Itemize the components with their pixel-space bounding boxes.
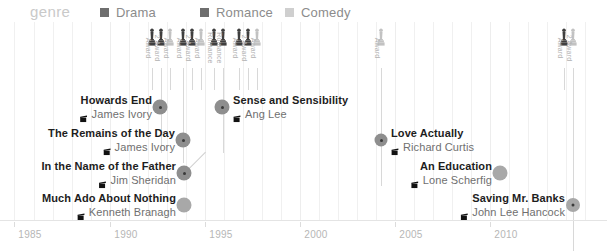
gridline <box>53 22 54 220</box>
film-label[interactable]: Saving Mr. BanksJohn Lee Hancock <box>460 192 565 219</box>
legend-label: Drama <box>116 5 156 20</box>
film-label[interactable]: Much Ado About NothingKenneth Branagh <box>42 192 176 219</box>
film-label[interactable]: An EducationLone Scherfig <box>411 160 492 187</box>
film-dot[interactable] <box>177 198 192 213</box>
award-stem <box>152 68 153 90</box>
axis-label: 2010 <box>494 229 517 240</box>
gridline <box>357 22 358 220</box>
award-caption: Award <box>374 38 381 59</box>
gridline <box>224 22 225 220</box>
film-director: James Ivory <box>92 108 152 121</box>
film-director-row: James Ivory <box>48 141 175 154</box>
award-stem <box>214 68 215 90</box>
film-dot-core <box>572 204 575 207</box>
legend-swatch-icon <box>285 8 294 17</box>
award-caption: Romance <box>207 32 214 63</box>
award-caption: 2 Award <box>185 35 192 62</box>
gridline <box>338 22 339 220</box>
film-title: An Education <box>411 160 492 173</box>
award-stem <box>183 68 184 163</box>
gridline <box>91 22 92 220</box>
film-title: Much Ado About Nothing <box>42 192 176 205</box>
film-director-row: James Ivory <box>80 108 152 121</box>
award-caption: 2 Award <box>154 35 161 62</box>
award-caption: Award <box>176 38 183 59</box>
clapperboard-icon <box>103 143 111 151</box>
axis-line <box>0 220 607 221</box>
film-label[interactable]: Sense and SensibilityAng Lee <box>233 94 348 121</box>
axis-tick <box>395 222 396 227</box>
award-caption: Award <box>145 38 152 59</box>
film-dot[interactable] <box>375 134 388 147</box>
gridline <box>528 22 529 220</box>
film-dot[interactable] <box>177 166 192 181</box>
clapperboard-icon <box>77 208 85 216</box>
clapperboard-icon <box>233 110 241 118</box>
axis-label: 2000 <box>304 229 327 240</box>
award-stem <box>170 68 171 90</box>
film-director-row: John Lee Hancock <box>460 206 565 219</box>
film-director-row: Richard Curtis <box>391 141 474 154</box>
axis-label: 1990 <box>114 229 137 240</box>
film-dot-core <box>183 172 186 175</box>
film-director-row: Jim Sheridan <box>41 174 176 187</box>
gridline <box>72 22 73 220</box>
film-dot[interactable] <box>215 100 230 115</box>
film-title: Love Actually <box>391 127 474 140</box>
film-label[interactable]: Love ActuallyRichard Curtis <box>391 127 474 154</box>
clapperboard-icon <box>99 176 107 184</box>
gridline <box>547 22 548 220</box>
legend-item-drama[interactable]: Drama <box>100 5 156 20</box>
film-director-row: Ang Lee <box>233 108 348 121</box>
award-caption: Romance <box>216 32 223 63</box>
gridline <box>129 22 130 220</box>
gridline <box>14 22 15 220</box>
film-dot-core <box>159 106 162 109</box>
legend-label: Comedy <box>301 5 351 20</box>
axis-label: 1995 <box>209 229 232 240</box>
award-stem <box>239 68 240 90</box>
film-dot[interactable] <box>566 198 580 212</box>
film-dot-core <box>380 139 383 142</box>
film-label[interactable]: The Remains of the DayJames Ivory <box>48 127 175 154</box>
film-title: The Remains of the Day <box>48 127 175 140</box>
award-stem <box>257 68 258 90</box>
gridline <box>281 22 282 220</box>
axis-tick <box>14 222 15 227</box>
award-caption: Award <box>557 38 564 59</box>
gridline <box>110 22 111 220</box>
legend-item-comedy[interactable]: Comedy <box>285 5 351 20</box>
gridline <box>205 22 206 220</box>
axis-tick <box>110 222 111 227</box>
legend-item-romance[interactable]: Romance <box>200 5 273 20</box>
award-caption: Award <box>163 38 170 59</box>
film-dot[interactable] <box>176 133 191 148</box>
legend-swatch-icon <box>100 8 109 17</box>
gridline <box>433 22 434 220</box>
gridline <box>471 22 472 220</box>
film-director-row: Kenneth Branagh <box>42 206 176 219</box>
gridline <box>490 22 491 220</box>
film-label[interactable]: In the Name of the FatherJim Sheridan <box>41 160 176 187</box>
film-dot[interactable] <box>153 100 168 115</box>
award-stem <box>192 68 193 90</box>
film-director-row: Lone Scherfig <box>411 174 492 187</box>
axis-tick <box>300 222 301 227</box>
gridline <box>319 22 320 220</box>
award-caption: Award <box>232 38 239 59</box>
film-title: Saving Mr. Banks <box>460 192 565 205</box>
film-label[interactable]: Howards EndJames Ivory <box>80 94 152 121</box>
axis-label: 1985 <box>18 229 41 240</box>
award-stem <box>248 68 249 90</box>
film-title: In the Name of the Father <box>41 160 176 173</box>
legend-label: Romance <box>216 5 273 20</box>
film-director: Ang Lee <box>245 108 287 121</box>
legend-swatch-icon <box>200 8 209 17</box>
legend-title: genre <box>30 3 70 20</box>
film-director: James Ivory <box>115 141 175 154</box>
film-dot[interactable] <box>493 166 508 181</box>
clapperboard-icon <box>391 143 399 151</box>
gridline <box>585 22 586 220</box>
gridline <box>300 22 301 220</box>
